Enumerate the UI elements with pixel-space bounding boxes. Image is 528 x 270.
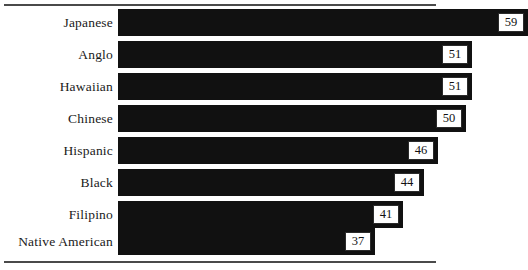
bar-row: Filipino 41 (0, 201, 441, 228)
plot-area: Japanese 59 Anglo 51 Hawaiian 51 Chinese… (0, 9, 441, 257)
category-label: Chinese (0, 105, 113, 132)
category-label: Hispanic (0, 137, 113, 164)
bar: 46 (118, 137, 438, 164)
bar-row: Chinese 50 (0, 105, 441, 132)
bar-value-label: 50 (436, 109, 462, 128)
bar-value-label: 44 (394, 173, 420, 192)
category-label: Hawaiian (0, 73, 113, 100)
bar-row: Hispanic 46 (0, 137, 441, 164)
top-rule (4, 4, 436, 6)
bar-row: Anglo 51 (0, 41, 441, 68)
bar-value-label: 46 (408, 141, 434, 160)
bar-value-label: 37 (345, 232, 371, 251)
bar: 41 (118, 201, 403, 228)
bar: 59 (118, 9, 528, 36)
bar: 51 (118, 41, 472, 68)
bar: 37 (118, 228, 375, 255)
category-label: Black (0, 169, 113, 196)
category-label: Anglo (0, 41, 113, 68)
bar-value-label: 41 (373, 205, 399, 224)
bottom-rule (4, 261, 436, 263)
bar-value-label: 51 (442, 45, 468, 64)
bar-row: Native American 37 (0, 228, 441, 255)
bar-value-label: 59 (498, 13, 524, 32)
bar-row: Japanese 59 (0, 9, 441, 36)
category-label: Filipino (0, 201, 113, 228)
bar: 50 (118, 105, 466, 132)
bar-row: Hawaiian 51 (0, 73, 441, 100)
bar-value-label: 51 (442, 77, 468, 96)
category-label: Native American (0, 228, 113, 255)
bar: 44 (118, 169, 424, 196)
category-label: Japanese (0, 9, 113, 36)
bar-row: Black 44 (0, 169, 441, 196)
bar: 51 (118, 73, 472, 100)
